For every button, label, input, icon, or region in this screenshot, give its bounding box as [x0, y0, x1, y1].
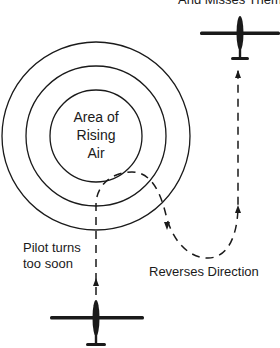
- diagram-canvas: [0, 0, 280, 348]
- top-caption: And Misses Them: [178, 0, 280, 8]
- reverse-label: Reverses Direction: [149, 264, 259, 280]
- glider-bottom-icon: [50, 300, 144, 346]
- center-label-line-2: Rising: [56, 126, 136, 144]
- glider-top-icon: [200, 16, 280, 60]
- arrow-up-top-icon: [235, 70, 241, 78]
- center-label-line-1: Area of: [56, 108, 136, 126]
- arrow-up-bottom-icon: [93, 278, 99, 286]
- arrow-up-right-icon: [235, 205, 241, 213]
- center-label-line-3: Air: [56, 144, 136, 162]
- pilot-label-line-1: Pilot turns: [23, 240, 81, 256]
- flight-path: [96, 70, 238, 295]
- pilot-label: Pilot turns too soon: [23, 240, 81, 272]
- center-label: Area of Rising Air: [56, 108, 136, 162]
- pilot-label-line-2: too soon: [23, 256, 81, 272]
